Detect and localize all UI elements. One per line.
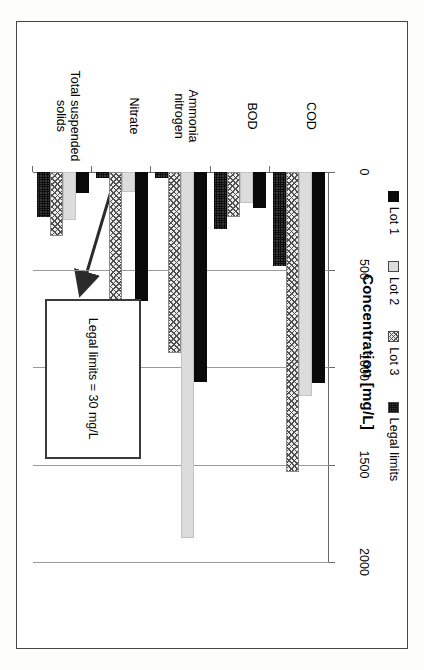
- plot-area: 0500100015002000CODBODAmmonia nitrogenNi…: [33, 172, 329, 562]
- legend-item-lot-1: Lot 1: [387, 191, 401, 235]
- bar-lot-2: [240, 172, 253, 203]
- bar-lot-1: [253, 172, 266, 208]
- bar-lot-3: [50, 172, 63, 236]
- axis-tick: [329, 367, 335, 368]
- bar-lot-1: [194, 172, 207, 382]
- category-label: COD: [304, 68, 318, 164]
- legend-item-legal-limits: Legal limits: [387, 402, 401, 482]
- chart-figure: Lot 1Lot 2Lot 3Legal limits Concentratio…: [16, 21, 408, 649]
- axis-tick-label: 1000: [357, 353, 371, 381]
- axis-tick: [329, 270, 335, 271]
- bar-lot-1: [312, 172, 325, 383]
- legend-swatch-icon: [389, 191, 400, 202]
- bar-lot-2: [122, 172, 135, 192]
- category-tick: [210, 166, 211, 172]
- legend-item-label: Lot 3: [387, 347, 401, 375]
- legend-item-label: Lot 1: [387, 207, 401, 235]
- legend-item-label: Lot 2: [387, 277, 401, 305]
- bar-lot-1: [135, 172, 148, 301]
- bar-legal-limits: [214, 172, 227, 229]
- bar-legal-limits: [273, 172, 286, 266]
- category-tick: [269, 166, 270, 172]
- bar-lot-3: [227, 172, 240, 217]
- bar-lot-1: [76, 172, 89, 193]
- chart-legend: Lot 1Lot 2Lot 3Legal limits: [381, 36, 407, 636]
- bar-lot-3: [168, 172, 181, 353]
- axis-tick-label: 500: [357, 259, 371, 280]
- axis-tick: [329, 562, 335, 563]
- legend-swatch-icon: [389, 331, 400, 342]
- gridline: [33, 562, 329, 563]
- axis-tick-label: 1500: [357, 451, 371, 479]
- category-label: BOD: [245, 68, 259, 164]
- axis-tick: [329, 172, 335, 173]
- legal-limits-annotation: Legal limits = 30 mg/L: [45, 299, 141, 459]
- bar-legal-limits: [155, 172, 168, 178]
- bar-lot-2: [181, 172, 194, 538]
- axis-tick-label: 2000: [357, 548, 371, 576]
- bar-lot-2: [63, 172, 76, 220]
- legend-item-label: Legal limits: [387, 418, 401, 482]
- category-tick: [32, 166, 33, 172]
- legend-item-lot-2: Lot 2: [387, 261, 401, 305]
- category-label: Ammonia nitrogen: [172, 68, 199, 164]
- category-tick: [150, 166, 151, 172]
- rotated-figure-wrapper: Lot 1Lot 2Lot 3Legal limits Concentratio…: [16, 21, 408, 649]
- figure-page: Lot 1Lot 2Lot 3Legal limits Concentratio…: [0, 0, 424, 670]
- bar-lot-2: [299, 172, 312, 396]
- legend-swatch-icon: [389, 402, 400, 413]
- axis-tick: [329, 465, 335, 466]
- category-tick: [91, 166, 92, 172]
- legend-item-lot-3: Lot 3: [387, 331, 401, 375]
- annotation-text: Legal limits = 30 mg/L: [86, 318, 100, 440]
- category-label: Nitrate: [126, 68, 140, 164]
- category-label: Total suspended solids: [54, 68, 81, 164]
- legend-swatch-icon: [389, 261, 400, 272]
- axis-tick-label: 0: [357, 169, 371, 176]
- bar-lot-3: [286, 172, 299, 472]
- bar-legal-limits: [96, 172, 109, 178]
- bar-legal-limits: [37, 172, 50, 217]
